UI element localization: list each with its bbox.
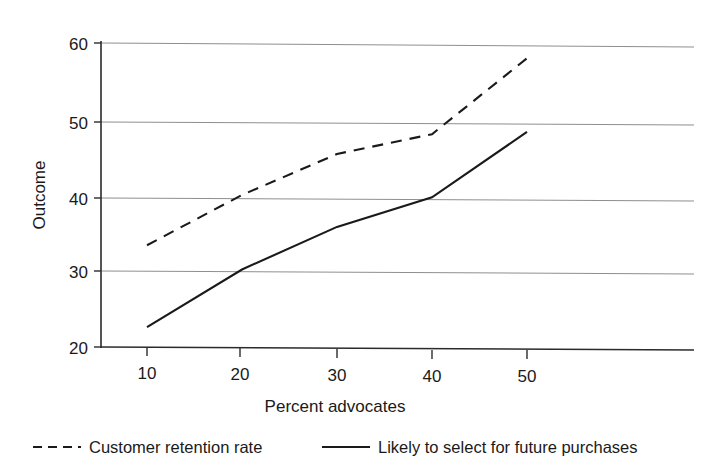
- legend-entry-likely-to-select: Likely to select for future purchases: [322, 438, 638, 456]
- x-tick-label-30: 30: [328, 366, 347, 385]
- gridlines: [101, 43, 694, 274]
- y-tick-label-40: 40: [69, 190, 88, 209]
- y-tick-label-60: 60: [69, 35, 88, 54]
- legend-label-customer-retention-rate: Customer retention rate: [89, 438, 262, 456]
- series-line-customer-retention-rate: [147, 58, 527, 245]
- x-tick-label-10: 10: [138, 364, 157, 383]
- x-tick-label-20: 20: [231, 365, 250, 384]
- gridline-60: [101, 43, 694, 47]
- series-line-likely-to-select: [147, 132, 527, 327]
- x-axis-title: Percent advocates: [265, 397, 406, 416]
- legend: Customer retention rate Likely to select…: [33, 438, 638, 456]
- y-tick-label-50: 50: [69, 114, 88, 133]
- gridline-50: [101, 122, 694, 125]
- y-tick-label-20: 20: [69, 339, 88, 358]
- x-tick-labels: 10 20 30 40 50: [138, 364, 537, 386]
- gridline-40: [101, 198, 694, 201]
- x-axis-line: [101, 347, 694, 350]
- line-chart: 60 50 40 30 20 10 20 30 40 50 Outcome Pe…: [0, 0, 722, 471]
- x-tick-label-40: 40: [423, 367, 442, 386]
- x-tick-label-50: 50: [518, 367, 537, 386]
- gridline-30: [101, 271, 694, 274]
- chart-figure: 60 50 40 30 20 10 20 30 40 50 Outcome Pe…: [0, 0, 722, 471]
- y-axis-title: Outcome: [30, 161, 49, 230]
- legend-label-likely-to-select: Likely to select for future purchases: [378, 438, 638, 456]
- y-tick-labels: 60 50 40 30 20: [69, 35, 88, 358]
- axes: [101, 41, 694, 350]
- y-tick-marks: [94, 43, 101, 347]
- legend-entry-customer-retention-rate: Customer retention rate: [33, 438, 262, 456]
- y-tick-label-30: 30: [69, 263, 88, 282]
